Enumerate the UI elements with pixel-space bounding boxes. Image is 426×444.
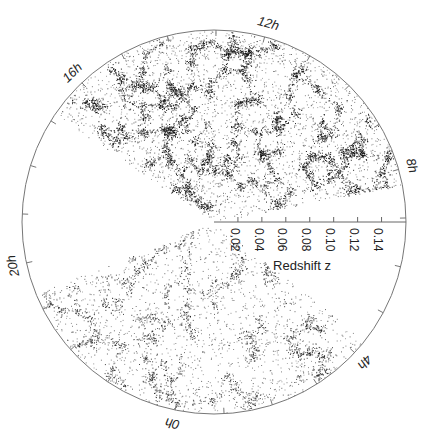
galaxy-point <box>139 310 140 311</box>
galaxy-point <box>213 131 214 132</box>
galaxy-point <box>265 174 266 175</box>
galaxy-point <box>145 130 146 131</box>
galaxy-point <box>268 115 269 116</box>
galaxy-point <box>334 83 335 84</box>
galaxy-point <box>168 248 169 249</box>
galaxy-point <box>109 335 110 336</box>
galaxy-point <box>296 173 297 174</box>
galaxy-point <box>275 389 276 390</box>
galaxy-point <box>308 95 309 96</box>
galaxy-point <box>204 50 205 51</box>
galaxy-point <box>236 54 237 55</box>
galaxy-point <box>326 328 327 329</box>
galaxy-point <box>281 131 282 132</box>
galaxy-point <box>174 171 175 172</box>
galaxy-point <box>120 130 121 131</box>
galaxy-point <box>164 321 165 322</box>
galaxy-point <box>165 166 166 167</box>
galaxy-point <box>249 181 250 182</box>
galaxy-point <box>218 370 219 371</box>
galaxy-point <box>103 100 104 101</box>
galaxy-point <box>127 134 128 135</box>
galaxy-point <box>174 344 175 345</box>
galaxy-point <box>366 121 367 122</box>
galaxy-point <box>201 190 202 191</box>
galaxy-point <box>263 159 264 160</box>
galaxy-point <box>313 184 314 185</box>
galaxy-point <box>389 162 390 163</box>
galaxy-point <box>169 287 170 288</box>
galaxy-point <box>275 156 276 157</box>
galaxy-point <box>303 353 304 354</box>
galaxy-point <box>217 323 218 324</box>
galaxy-point <box>142 73 143 74</box>
galaxy-point <box>232 273 233 274</box>
galaxy-point <box>115 367 116 368</box>
galaxy-point <box>204 43 205 44</box>
galaxy-point <box>231 387 232 388</box>
galaxy-point <box>309 346 310 347</box>
galaxy-point <box>115 345 116 346</box>
galaxy-point <box>118 300 119 301</box>
galaxy-point <box>162 172 163 173</box>
galaxy-point <box>168 265 169 266</box>
galaxy-point <box>279 201 280 202</box>
galaxy-point <box>236 130 237 131</box>
galaxy-point <box>215 135 216 136</box>
galaxy-point <box>358 137 359 138</box>
galaxy-point <box>140 319 141 320</box>
galaxy-point <box>340 192 341 193</box>
galaxy-point <box>214 65 215 66</box>
galaxy-point <box>390 156 391 157</box>
galaxy-point <box>67 316 68 317</box>
galaxy-point <box>134 74 135 75</box>
galaxy-point <box>164 304 165 305</box>
galaxy-point <box>234 52 235 53</box>
galaxy-point <box>206 123 207 124</box>
galaxy-point <box>254 346 255 347</box>
galaxy-point <box>333 156 334 157</box>
galaxy-point <box>310 163 311 164</box>
galaxy-point <box>223 174 224 175</box>
galaxy-point <box>112 366 113 367</box>
galaxy-point <box>274 334 275 335</box>
galaxy-point <box>178 244 179 245</box>
galaxy-point <box>185 129 186 130</box>
galaxy-point <box>302 320 303 321</box>
galaxy-point <box>293 344 294 345</box>
galaxy-point <box>206 387 207 388</box>
galaxy-point <box>123 74 124 75</box>
galaxy-point <box>242 55 243 56</box>
galaxy-point <box>171 378 172 379</box>
galaxy-point <box>307 176 308 177</box>
galaxy-point <box>184 42 185 43</box>
galaxy-point <box>131 296 132 297</box>
galaxy-point <box>174 108 175 109</box>
galaxy-point <box>157 328 158 329</box>
galaxy-point <box>123 137 124 138</box>
galaxy-point <box>224 70 225 71</box>
galaxy-point <box>190 188 191 189</box>
galaxy-point <box>248 272 249 273</box>
galaxy-point <box>195 368 196 369</box>
galaxy-point <box>250 58 251 59</box>
galaxy-point <box>257 333 258 334</box>
galaxy-point <box>294 127 295 128</box>
galaxy-point <box>123 299 124 300</box>
galaxy-point <box>73 311 74 312</box>
galaxy-point <box>287 182 288 183</box>
galaxy-point <box>285 390 286 391</box>
galaxy-point <box>176 77 177 78</box>
galaxy-point <box>251 62 252 63</box>
galaxy-point <box>281 204 282 205</box>
galaxy-point <box>215 38 216 39</box>
galaxy-point <box>101 138 102 139</box>
galaxy-point <box>254 144 255 145</box>
galaxy-point <box>99 98 100 99</box>
galaxy-point <box>273 168 274 169</box>
galaxy-point <box>320 365 321 366</box>
galaxy-point <box>307 184 308 185</box>
galaxy-point <box>294 160 295 161</box>
galaxy-point <box>251 54 252 55</box>
galaxy-point <box>319 157 320 158</box>
